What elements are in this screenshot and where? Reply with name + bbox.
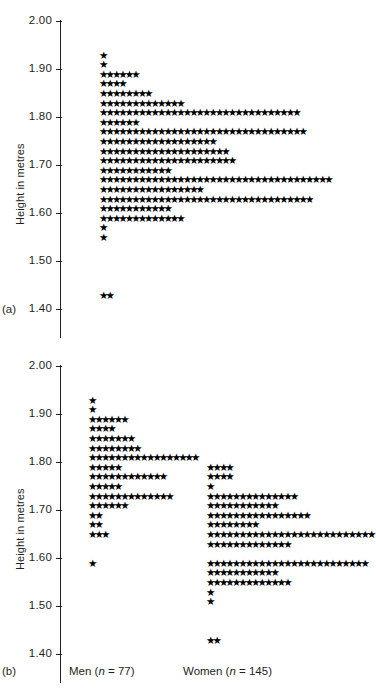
star-marker: ★ [283,577,289,587]
star-marker: ★ [206,596,212,606]
star-marker: ★ [88,558,94,568]
y-axis-line-b [60,365,61,683]
star-marker: ★ [101,529,107,539]
y-tick-1-90 [56,69,62,70]
men-row-1-59: ★ [88,558,94,568]
y-tick-2-00 [56,366,62,367]
star-marker: ★ [324,174,330,184]
star-marker: ★ [120,500,126,510]
y-tick-1-50 [56,261,62,262]
panel-a-combined: Height in metres (a) 2.001.901.801.701.6… [0,0,337,345]
y-tick-1-50 [56,606,62,607]
star-marker: ★ [131,69,137,79]
star-marker: ★ [303,510,309,520]
y-tick-label-2-00: 2.00 [16,359,52,371]
y-tick-1-60 [56,558,62,559]
y-tick-label-1-70: 1.70 [16,503,52,515]
y-tick-1-80 [56,462,62,463]
men-row-1-65: ★★★ [88,529,107,539]
star-marker: ★ [159,471,165,481]
all-row-1-59: ★★★★★★★★★★★★★ [99,213,183,223]
y-tick-label-1-70: 1.70 [16,158,52,170]
y-tick-1-40 [56,654,62,655]
y-tick-1-80 [56,117,62,118]
star-marker: ★ [299,126,305,136]
group-label-women: Women (n = 145) [183,665,272,677]
y-tick-label-1-60: 1.60 [16,551,52,563]
y-axis-line-a [60,20,61,338]
star-marker: ★ [305,194,311,204]
y-tick-label-1-90: 1.90 [16,62,52,74]
women-label-value: = 145) [236,665,272,677]
y-tick-1-90 [56,414,62,415]
y-tick-1-70 [56,510,62,511]
all-row-1-55: ★ [99,232,105,242]
y-tick-label-1-60: 1.60 [16,206,52,218]
women-label-prefix: Women ( [183,665,229,677]
star-marker: ★ [212,635,218,645]
panel-b-by-sex: Height in metres (b) 2.001.901.801.701.6… [0,345,337,690]
y-tick-label-1-40: 1.40 [16,647,52,659]
y-tick-label-1-40: 1.40 [16,302,52,314]
group-label-men: Men (n = 77) [69,665,135,677]
women-row-1-51: ★ [206,596,212,606]
panel-b-label: (b) [2,665,16,677]
panel-a-label: (a) [2,303,16,315]
star-marker: ★ [165,491,171,501]
men-label-prefix: Men ( [69,665,98,677]
star-marker: ★ [120,414,126,424]
y-tick-label-2-00: 2.00 [16,14,52,26]
y-tick-1-40 [56,309,62,310]
women-row-1-55: ★★★★★★★★★★★★★ [206,577,290,587]
star-marker: ★ [290,491,296,501]
all-row-1-43: ★★ [99,290,112,300]
y-tick-label-1-80: 1.80 [16,110,52,122]
star-marker: ★ [283,539,289,549]
star-marker: ★ [191,452,197,462]
y-tick-label-1-50: 1.50 [16,254,52,266]
men-label-value: = 77) [105,665,135,677]
y-tick-label-1-50: 1.50 [16,599,52,611]
y-tick-1-60 [56,213,62,214]
star-marker: ★ [176,213,182,223]
star-marker: ★ [367,529,373,539]
women-row-1-63: ★★★★★★★★★★★★★ [206,539,290,549]
star-marker: ★ [99,232,105,242]
star-marker: ★ [292,107,298,117]
women-row-1-43: ★★ [206,635,219,645]
star-marker: ★ [361,558,367,568]
star-marker: ★ [225,471,231,481]
y-tick-2-00 [56,21,62,22]
star-marker: ★ [228,155,234,165]
y-tick-label-1-90: 1.90 [16,407,52,419]
y-tick-1-70 [56,165,62,166]
star-marker: ★ [105,290,111,300]
y-tick-label-1-80: 1.80 [16,455,52,467]
